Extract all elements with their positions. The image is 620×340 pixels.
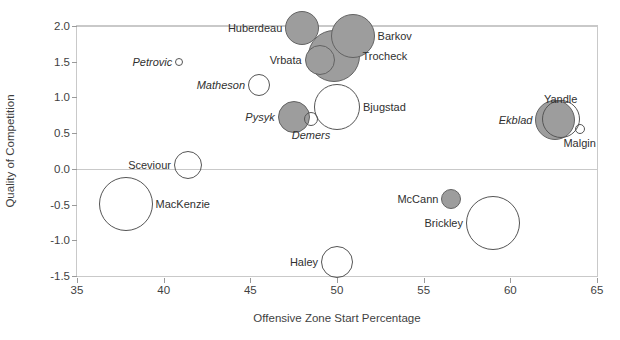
data-point-mackenzie[interactable]: [99, 177, 153, 231]
data-point-vrbata[interactable]: [305, 45, 335, 75]
point-label-ekblad: Ekblad: [499, 115, 533, 126]
point-label-bjugstad: Bjugstad: [363, 102, 406, 113]
y-tick-label: -1.0: [50, 234, 70, 246]
y-tick-label: -1.5: [50, 270, 70, 282]
y-tick: [72, 276, 77, 277]
y-tick-label: 2.0: [54, 20, 70, 32]
point-label-huberdeau: Huberdeau: [228, 23, 282, 34]
x-tick: [337, 278, 338, 283]
x-tick-label: 35: [71, 284, 84, 296]
plot-area: 2.01.51.00.50.0-0.5-1.0-1.53540455055606…: [76, 25, 598, 277]
x-tick: [597, 278, 598, 283]
y-tick: [72, 97, 77, 98]
data-point-brickley[interactable]: [466, 196, 520, 250]
y-tick: [72, 26, 77, 27]
x-tick-label: 65: [591, 284, 604, 296]
point-label-trocheck: Trocheck: [363, 51, 408, 62]
y-tick: [72, 62, 77, 63]
point-label-pysyk: Pysyk: [245, 111, 274, 122]
point-label-haley: Haley: [290, 256, 318, 267]
point-label-vrbata: Vrbata: [270, 54, 302, 65]
x-axis-title: Offensive Zone Start Percentage: [76, 312, 598, 324]
x-tick-label: 60: [504, 284, 517, 296]
data-point-bjugstad[interactable]: [314, 84, 360, 130]
data-point-demers[interactable]: [304, 112, 318, 126]
x-tick: [164, 278, 165, 283]
y-tick-label: 1.0: [54, 91, 70, 103]
data-point-matheson[interactable]: [248, 74, 270, 96]
point-label-demers: Demers: [292, 129, 331, 140]
y-tick-label: 0.5: [54, 127, 70, 139]
data-point-mccann[interactable]: [441, 189, 461, 209]
point-label-brickley: Brickley: [424, 218, 463, 229]
point-label-sceviour: Sceviour: [128, 159, 171, 170]
point-label-mackenzie: MacKenzie: [156, 198, 210, 209]
x-tick: [250, 278, 251, 283]
data-point-yandle[interactable]: [542, 100, 580, 138]
data-point-petrovic[interactable]: [175, 58, 183, 66]
point-label-mccann: McCann: [397, 193, 438, 204]
data-point-huberdeau[interactable]: [285, 11, 319, 45]
x-tick-label: 40: [157, 284, 170, 296]
point-label-malgin: Malgin: [563, 137, 595, 148]
y-tick-label: -0.5: [50, 199, 70, 211]
point-label-matheson: Matheson: [197, 80, 245, 91]
x-tick-label: 50: [331, 284, 344, 296]
y-tick: [72, 133, 77, 134]
point-label-barkov: Barkov: [378, 31, 412, 42]
y-axis-title-text: Quality of Competition: [4, 94, 16, 207]
y-tick-label: 1.5: [54, 56, 70, 68]
x-tick: [510, 278, 511, 283]
bubble-chart: Quality of Competition 2.01.51.00.50.0-0…: [0, 0, 620, 340]
y-tick: [72, 240, 77, 241]
data-point-sceviour[interactable]: [174, 151, 202, 179]
data-point-malgin[interactable]: [575, 124, 585, 134]
y-tick: [72, 169, 77, 170]
y-tick: [72, 205, 77, 206]
point-label-petrovic: Petrovic: [133, 56, 173, 67]
y-tick-label: 0.0: [54, 163, 70, 175]
x-tick: [424, 278, 425, 283]
x-tick-label: 45: [244, 284, 257, 296]
x-tick-label: 55: [417, 284, 430, 296]
point-label-yandle: Yandle: [544, 93, 577, 104]
x-tick: [77, 278, 78, 283]
y-axis-title: Quality of Competition: [2, 25, 18, 277]
data-point-haley[interactable]: [321, 246, 353, 278]
